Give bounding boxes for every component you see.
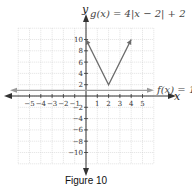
svg-text:−5: −5 (24, 100, 34, 108)
svg-text:8: 8 (79, 47, 83, 55)
svg-text:1: 1 (95, 100, 99, 108)
svg-text:10: 10 (74, 36, 83, 44)
graph-figure: −5−4−3−2−112345−10−8−6−4−2246810 y x g(x… (0, 0, 192, 191)
f-function-label: f(x) = 1 (156, 84, 192, 95)
svg-text:−3: −3 (47, 100, 57, 108)
svg-text:2: 2 (79, 81, 83, 89)
svg-text:−4: −4 (36, 100, 47, 108)
svg-text:−2: −2 (58, 100, 68, 108)
y-axis-label: y (81, 3, 89, 16)
svg-text:6: 6 (79, 59, 84, 67)
g-function-label: g(x) = 4|x − 2| + 2 (90, 8, 186, 20)
svg-text:3: 3 (118, 100, 122, 108)
figure-caption: Figure 10 (0, 175, 172, 186)
svg-text:4: 4 (129, 100, 134, 108)
svg-text:−10: −10 (68, 149, 83, 157)
svg-text:2: 2 (106, 100, 110, 108)
svg-text:−8: −8 (73, 138, 83, 146)
svg-text:4: 4 (79, 70, 84, 78)
svg-text:−6: −6 (73, 126, 84, 134)
svg-text:5: 5 (140, 100, 144, 108)
svg-text:−4: −4 (73, 115, 84, 123)
svg-text:−2: −2 (73, 104, 83, 112)
